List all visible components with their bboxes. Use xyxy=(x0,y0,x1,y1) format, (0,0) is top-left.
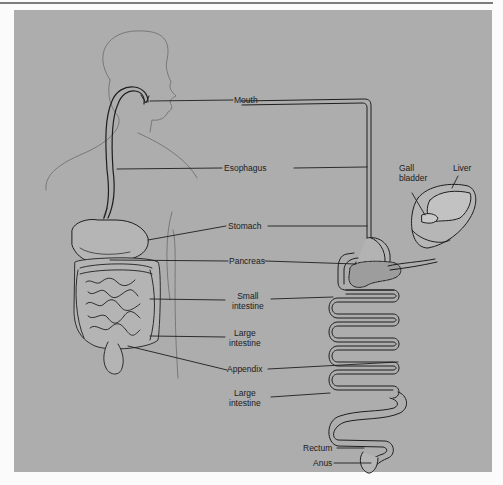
large-intestine-path xyxy=(329,392,407,473)
label-large-intestine-upper-line2: intestine xyxy=(229,338,261,348)
label-large-intestine-lower-line2: intestine xyxy=(229,398,261,408)
label-liver: Liver xyxy=(453,163,471,173)
label-anus: Anus xyxy=(313,458,332,468)
label-small-intestine-line1: Small xyxy=(232,291,264,301)
label-appendix: Appendix xyxy=(227,364,262,374)
organs-in-body xyxy=(72,87,149,262)
label-gall-bladder-line1: Gall xyxy=(399,163,427,173)
label-gall-bladder-line2: bladder xyxy=(399,173,427,183)
label-small-intestine-line2: intestine xyxy=(232,301,264,311)
label-large-intestine-lower: Large intestine xyxy=(229,388,261,408)
intestines-in-body xyxy=(74,258,160,374)
leader-lines xyxy=(110,100,458,463)
label-large-intestine-lower-line1: Large xyxy=(229,388,261,398)
label-stomach: Stomach xyxy=(228,221,262,231)
liver xyxy=(412,184,476,248)
digestive-system-diagram xyxy=(0,0,503,485)
label-pancreas: Pancreas xyxy=(229,256,265,266)
label-mouth: Mouth xyxy=(234,95,258,105)
label-small-intestine: Small intestine xyxy=(232,291,264,311)
label-esophagus: Esophagus xyxy=(224,163,267,173)
label-rectum: Rectum xyxy=(303,443,332,453)
label-large-intestine-upper: Large intestine xyxy=(229,328,261,348)
small-intestine-coils xyxy=(329,290,399,398)
label-gall-bladder: Gall bladder xyxy=(399,163,427,183)
label-large-intestine-upper-line1: Large xyxy=(229,328,261,338)
